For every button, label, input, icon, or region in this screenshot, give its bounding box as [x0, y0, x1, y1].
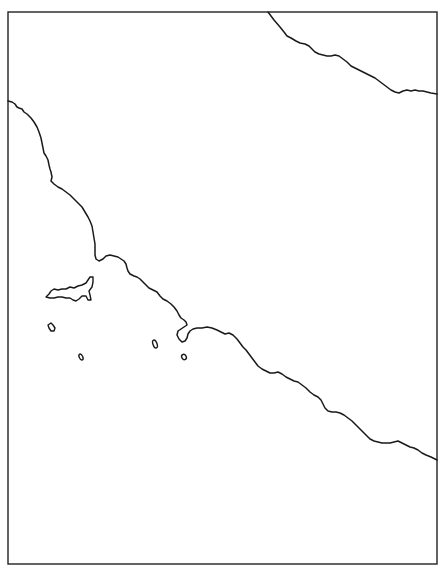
northeast-coastline [268, 12, 437, 94]
map-container [0, 0, 440, 566]
large-island [46, 277, 93, 301]
small-island-2 [78, 353, 84, 360]
small-island-4 [181, 353, 188, 360]
small-island-1 [48, 323, 55, 331]
main-coastline [8, 101, 437, 460]
small-island-3 [152, 339, 159, 348]
map-canvas [0, 0, 440, 566]
